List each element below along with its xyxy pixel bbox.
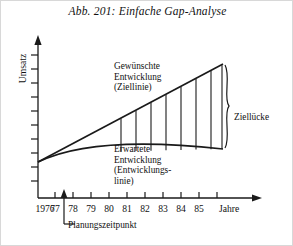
gap-brace <box>225 65 229 148</box>
annotation-expected-development: Erwartete Entwicklung (Entwicklungs- lin… <box>114 144 171 186</box>
annotation-wanted-development: Gewünschte Entwicklung (Ziellinie) <box>114 61 162 93</box>
x-axis <box>38 192 262 202</box>
gap-analysis-figure: Abb. 201: Einfache Gap-Analyse Umsatz <box>0 0 293 246</box>
x-axis-ticks <box>55 192 217 198</box>
y-axis-ticks <box>31 55 38 181</box>
x-tick-label-85: 85 <box>186 203 212 214</box>
annotation-gap: Ziellücke <box>234 112 269 123</box>
annotation-planning-point: Planungszeitpunkt <box>68 220 137 231</box>
x-axis-label: Jahre <box>219 204 239 215</box>
y-axis <box>31 35 42 198</box>
